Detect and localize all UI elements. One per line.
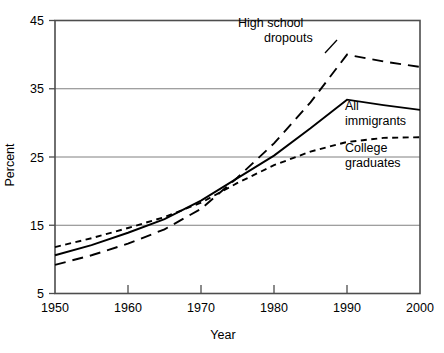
xtick-label-1970: 1970 <box>187 301 215 315</box>
xtick-label-2000: 2000 <box>406 301 434 315</box>
ytick-label-5: 5 <box>37 287 44 301</box>
xtick-label-1960: 1960 <box>114 301 142 315</box>
ytick-label-35: 35 <box>30 82 44 96</box>
chart-figure: 45 35 25 15 5 1950 1960 1970 1980 1990 2… <box>0 0 444 353</box>
ytick-label-15: 15 <box>30 219 44 233</box>
xtick-label-1990: 1990 <box>333 301 361 315</box>
annotation-dropouts-line1: High school <box>238 16 303 30</box>
annotation-dropouts-line2: dropouts <box>264 31 313 45</box>
dropouts-leader-line <box>325 40 337 53</box>
y-axis-title: Percent <box>3 143 17 187</box>
annotation-college-line1: College <box>345 141 387 155</box>
xtick-label-1950: 1950 <box>41 301 69 315</box>
annotation-college-line2: graduates <box>345 156 401 170</box>
xtick-label-1980: 1980 <box>260 301 288 315</box>
annotation-all-immigrants-line2: immigrants <box>345 114 406 128</box>
ytick-label-45: 45 <box>30 14 44 28</box>
x-axis-title: Year <box>210 328 235 342</box>
ytick-label-25: 25 <box>30 151 44 165</box>
line-chart: 45 35 25 15 5 1950 1960 1970 1980 1990 2… <box>0 0 444 353</box>
annotation-all-immigrants-line1: All <box>345 99 359 113</box>
